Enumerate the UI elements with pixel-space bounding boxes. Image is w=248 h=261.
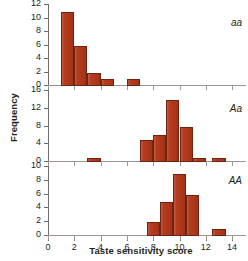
y-tick-label: 10	[31, 12, 41, 23]
panel-AA: AA 0246810	[0, 166, 248, 236]
histogram-bar	[153, 135, 166, 162]
panel-x-tick	[74, 86, 75, 90]
y-tick-mark	[44, 18, 48, 19]
panel-x-tick	[206, 162, 207, 166]
plot-area-Aa	[48, 90, 248, 162]
y-tick-label: 4	[36, 201, 41, 212]
histogram-bar	[186, 195, 199, 236]
panel-x-tick	[180, 236, 181, 240]
panel-x-tick	[153, 162, 154, 166]
panel-x-tick	[153, 86, 154, 90]
y-tick-label: 16	[31, 84, 41, 95]
y-tick-aa-8: 8	[0, 31, 48, 32]
y-tick-mark	[44, 90, 48, 91]
y-tick-label: 10	[31, 160, 41, 171]
y-tick-mark	[44, 194, 48, 195]
histogram-figure: Frequency aa 024681012 Aa 0481216 AA 024…	[0, 0, 248, 261]
panel-x-tick	[48, 86, 49, 90]
y-tick-label: 2	[36, 215, 41, 226]
panel-x-tick	[232, 162, 233, 166]
y-tick-aa-2: 2	[0, 72, 48, 73]
histogram-bar	[87, 73, 100, 87]
panel-x-tick	[127, 86, 128, 90]
y-tick-aa-10: 10	[0, 18, 48, 19]
y-tick-aa-4: 4	[0, 58, 48, 59]
panel-x-tick	[232, 86, 233, 90]
y-tick-mark	[44, 180, 48, 181]
histogram-bar	[61, 12, 74, 86]
histogram-bar	[212, 229, 225, 236]
panel-aa: aa 024681012	[0, 4, 248, 86]
y-tick-mark	[44, 166, 48, 167]
y-tick-AA-10: 10	[0, 166, 48, 167]
histogram-bar	[160, 202, 173, 237]
y-tick-mark	[44, 58, 48, 59]
histogram-bar	[166, 100, 179, 162]
panel-x-tick	[127, 162, 128, 166]
panel-x-tick	[48, 162, 49, 166]
y-tick-Aa-8: 8	[0, 126, 48, 127]
histogram-bar	[127, 79, 140, 86]
y-tick-Aa-16: 16	[0, 90, 48, 91]
y-tick-mark	[44, 126, 48, 127]
panel-Aa: Aa 0481216	[0, 90, 248, 162]
y-tick-mark	[44, 4, 48, 5]
y-tick-label: 8	[36, 120, 41, 131]
y-tick-label: 12	[31, 102, 41, 113]
y-tick-label: 12	[31, 0, 41, 9]
histogram-bar	[140, 140, 153, 162]
panel-x-tick	[232, 236, 233, 240]
y-tick-label: 2	[36, 66, 41, 77]
panel-x-tick	[180, 162, 181, 166]
histogram-bar	[173, 174, 186, 236]
y-tick-Aa-12: 12	[0, 108, 48, 109]
y-tick-aa-6: 6	[0, 45, 48, 46]
y-tick-mark	[44, 143, 48, 144]
y-tick-mark	[44, 221, 48, 222]
y-tick-label: 8	[36, 174, 41, 185]
y-tick-Aa-4: 4	[0, 143, 48, 144]
histogram-bar	[212, 158, 225, 162]
histogram-bar	[180, 127, 193, 163]
plot-area-aa	[48, 4, 248, 86]
panel-x-tick	[206, 236, 207, 240]
panel-x-tick	[127, 236, 128, 240]
panel-x-tick	[74, 236, 75, 240]
panel-x-tick	[153, 236, 154, 240]
y-tick-mark	[44, 45, 48, 46]
panel-x-tick	[206, 86, 207, 90]
histogram-bar	[87, 158, 100, 162]
y-tick-AA-4: 4	[0, 207, 48, 208]
panel-x-tick	[180, 86, 181, 90]
histogram-bar	[101, 79, 114, 86]
y-tick-label: 4	[36, 137, 41, 148]
panel-x-tick	[101, 86, 102, 90]
y-tick-label: 6	[36, 39, 41, 50]
panel-x-tick	[74, 162, 75, 166]
panel-x-tick	[48, 236, 49, 240]
y-tick-AA-2: 2	[0, 221, 48, 222]
y-tick-aa-12: 12	[0, 4, 48, 5]
plot-area-AA	[48, 166, 248, 236]
y-tick-label: 4	[36, 52, 41, 63]
y-tick-mark	[44, 72, 48, 73]
panel-x-tick	[101, 236, 102, 240]
y-tick-AA-6: 6	[0, 194, 48, 195]
panel-x-tick	[101, 162, 102, 166]
x-axis-title: Taste sensitivity score	[46, 245, 236, 256]
y-tick-mark	[44, 31, 48, 32]
histogram-bar	[74, 46, 87, 87]
y-tick-label: 8	[36, 25, 41, 36]
y-tick-mark	[44, 207, 48, 208]
histogram-bar	[193, 158, 206, 162]
y-tick-label: 6	[36, 188, 41, 199]
histogram-bar	[147, 222, 160, 236]
y-tick-mark	[44, 108, 48, 109]
y-tick-AA-8: 8	[0, 180, 48, 181]
